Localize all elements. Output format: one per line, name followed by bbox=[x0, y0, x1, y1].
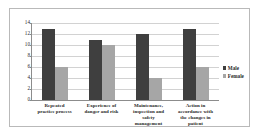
x-axis-label-1: Experience of danger and risk bbox=[78, 103, 125, 115]
bar-female-2 bbox=[149, 78, 162, 100]
bar-female-3 bbox=[196, 67, 209, 100]
legend-item-male: Male bbox=[223, 64, 244, 72]
x-axis-label-3: Action in accordance with the changes in… bbox=[172, 103, 219, 127]
chart-figure: 02468101214 Repeated practice process Ex… bbox=[0, 0, 265, 138]
gridline bbox=[32, 23, 219, 24]
y-axis-tickmark bbox=[30, 45, 32, 46]
y-axis-tick-label: 12 bbox=[25, 31, 30, 36]
legend-label-male: Male bbox=[228, 64, 239, 72]
y-axis-tickmark bbox=[30, 23, 32, 24]
legend-swatch-female-icon bbox=[223, 74, 226, 77]
bar-male-3 bbox=[183, 29, 196, 101]
y-axis-tick-label: 8 bbox=[27, 53, 30, 58]
bar-female-0 bbox=[55, 67, 68, 100]
y-axis-tick-label: 14 bbox=[25, 20, 30, 25]
legend-label-female: Female bbox=[228, 72, 244, 80]
bar-male-0 bbox=[42, 29, 55, 101]
x-axis-label-2: Maintenance, inspection and safety manag… bbox=[125, 103, 172, 127]
chart-frame: 02468101214 Repeated practice process Ex… bbox=[9, 8, 250, 127]
x-axis-label-1-line2: danger and risk bbox=[78, 109, 125, 115]
x-axis-label-0-line2: practice process bbox=[31, 109, 78, 115]
x-axis-label-3-line4: patient bbox=[172, 121, 219, 127]
y-axis-tickmark bbox=[30, 34, 32, 35]
plot-area: 02468101214 bbox=[31, 23, 219, 101]
bar-male-1 bbox=[89, 40, 102, 101]
y-axis-tick-label: 2 bbox=[27, 86, 30, 91]
legend-item-female: Female bbox=[223, 72, 244, 80]
chart-legend: Male Female bbox=[223, 64, 244, 80]
bar-female-1 bbox=[102, 45, 115, 100]
legend-swatch-male-icon bbox=[223, 66, 226, 69]
y-axis-tick-label: 6 bbox=[27, 64, 30, 69]
y-axis-tick-label: 4 bbox=[27, 75, 30, 80]
y-axis-tick-label: 0 bbox=[27, 97, 30, 102]
bar-male-2 bbox=[136, 34, 149, 100]
x-axis-label-0: Repeated practice process bbox=[31, 103, 78, 115]
x-axis-label-2-line4: management bbox=[125, 121, 172, 127]
y-axis-tick-label: 10 bbox=[25, 42, 30, 47]
